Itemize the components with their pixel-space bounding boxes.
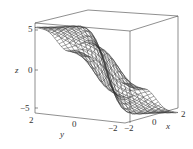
z-tick-neg5: −5 bbox=[20, 104, 30, 113]
tick-marks bbox=[35, 30, 38, 108]
y-tick-0: 0 bbox=[72, 120, 77, 129]
y-axis-label: y bbox=[60, 130, 64, 139]
z-tick-5: 5 bbox=[28, 25, 33, 34]
wireframe-mesh bbox=[35, 26, 178, 114]
y-tick-neg2: −2 bbox=[108, 124, 118, 133]
x-tick-0: 0 bbox=[152, 118, 157, 127]
x-axis-label: x bbox=[166, 122, 170, 131]
x-tick-neg2: −2 bbox=[124, 124, 134, 133]
z-axis-label: z bbox=[15, 66, 19, 75]
x-tick-2: 2 bbox=[181, 110, 186, 119]
z-tick-0: 0 bbox=[28, 66, 33, 75]
y-tick-2: 2 bbox=[29, 116, 34, 125]
